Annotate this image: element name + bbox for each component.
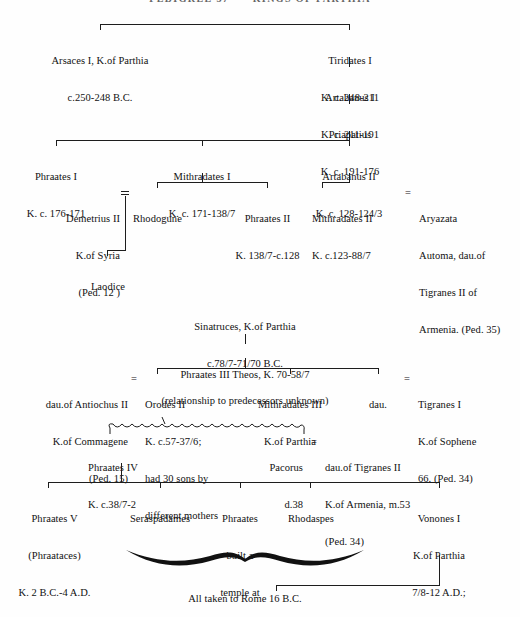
connector-wavy-uncertain-descent [105, 420, 315, 438]
person-name: Rhodogune [133, 213, 213, 225]
person-name: Phraates I [6, 171, 106, 183]
page-header: PEDIGREE 37 KINGS OF PARTHIA [0, 0, 520, 4]
connector-gen1-bar [100, 24, 350, 25]
connector-laodice-bar [107, 250, 126, 251]
connector-artabanus-ii-stem [349, 173, 350, 182]
person-name: Phraates V [2, 513, 107, 525]
person-name: Orodes II [145, 399, 255, 411]
person-rhodogune: Rhodogune [133, 188, 213, 250]
person-dates: K. 138/7-c.128 [215, 250, 320, 262]
person-dates: K. c.123-88/7 [312, 250, 407, 262]
connector-phraates-iv-stem [121, 463, 122, 482]
person-detail: Tigranes II of [419, 287, 519, 299]
connector-phraates-iii-stem [245, 358, 246, 368]
person-name: Artabanus I [290, 92, 410, 104]
person-name: Vonones I [392, 513, 486, 525]
person-name: Phraates II [215, 213, 320, 225]
decorative-brace [124, 540, 366, 566]
marriage-sign-demetrius-top [121, 191, 129, 192]
connector-gen8-bar [276, 585, 440, 586]
connector-mithradates-i-stem [202, 173, 203, 182]
person-name: dau.of Tigranes II [325, 462, 445, 474]
person-phraates-v: Phraates V (Phraataces) K. 2 B.C.-4 A.D. [2, 488, 107, 617]
person-name: Aryazata [419, 213, 519, 225]
pedigree-chart: PEDIGREE 37 KINGS OF PARTHIA Arsaces I, … [0, 0, 520, 617]
person-mithradates-ii: Mithradates II K. c.123-88/7 [312, 188, 407, 287]
marriage-sign-tigranes-i: = [404, 374, 410, 384]
marriage-sign-mithradates-ii: = [405, 188, 411, 198]
person-name: Phraates IV [88, 462, 198, 474]
person-name: Tiridates I [290, 55, 410, 67]
person-detail: Armenia. (Ped. 35) [419, 324, 519, 336]
person-name: Laodice [72, 281, 144, 293]
marriage-sign-pacorus: = [311, 437, 317, 447]
person-detail: Automa, dau.of [419, 250, 519, 262]
connector-priapatius-stem [349, 131, 350, 140]
marriage-sign-orodes: = [131, 374, 137, 384]
marriage-sign-demetrius-bottom [121, 194, 129, 195]
person-name: Phraates [202, 513, 278, 525]
connector-gen2-bar [56, 140, 350, 141]
connector-tiridates-artabanus [349, 57, 350, 67]
person-name: Arsaces I, K.of Parthia [30, 55, 170, 67]
person-arsaces-i: Arsaces I, K.of Parthia c.250-248 B.C. [30, 30, 170, 129]
connector-artabanus-priapatius [349, 94, 350, 104]
person-name: Seraspadames [112, 513, 208, 525]
person-alias: (Phraataces) [2, 550, 107, 562]
person-name: Mithradates II [312, 213, 407, 225]
connector-gen5-bar [157, 368, 379, 369]
person-name: Demetrius II [35, 213, 120, 225]
person-name: Rhodaspes [272, 513, 350, 525]
person-name: dau. [355, 399, 401, 411]
connector-laodice-vertical [125, 196, 126, 250]
person-aryazata: Aryazata Automa, dau.of Tigranes II of A… [419, 188, 519, 362]
person-name: dau.of Antiochus II [6, 399, 128, 411]
person-tiridates-iii: Tiridates III K.of Parthia c.36 [222, 591, 332, 617]
person-phraates-ii: Phraates II K. 138/7-c.128 [215, 188, 320, 287]
connector-gen3-bar-artabanus [322, 182, 350, 183]
person-name: Mithradates III [240, 399, 340, 411]
person-name: Pacorus [228, 462, 303, 474]
connector-sinatruces-phraates-iii [245, 334, 246, 344]
person-dau-tigranes-i-wife: dau. [355, 374, 401, 436]
person-meherdotes: Meherdotes [391, 591, 487, 617]
person-name: Sinatruces, K.of Parthia [125, 321, 365, 333]
connector-gen7-bar [48, 482, 440, 483]
person-name: Tigranes I [418, 399, 518, 411]
connector-gen3-bar-mithradates [157, 182, 268, 183]
person-dates: K. 2 B.C.-4 A.D. [2, 587, 107, 599]
connector-vonones-stem [439, 555, 440, 585]
person-dates: c.250-248 B.C. [30, 92, 170, 104]
